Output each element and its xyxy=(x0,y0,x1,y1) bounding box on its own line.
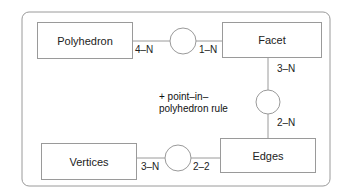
entity-facet-label: Facet xyxy=(258,34,286,46)
entity-vertices: Vertices xyxy=(41,143,137,180)
entity-vertices-label: Vertices xyxy=(69,156,108,168)
entity-polyhedron-label: Polyhedron xyxy=(57,35,113,47)
relationship-circle-polyhedron-facet xyxy=(170,28,196,54)
cardinality-facet-edges-bottom: 2–N xyxy=(277,117,295,128)
rule-note: + point–in– polyhedron rule xyxy=(159,91,228,115)
entity-edges: Edges xyxy=(220,138,316,173)
relationship-circle-vertices-edges xyxy=(165,145,191,171)
cardinality-polyhedron-facet-right: 1–N xyxy=(199,44,217,55)
cardinality-vertices-edges-right: 2–2 xyxy=(193,161,210,172)
cardinality-polyhedron-facet-left: 4–N xyxy=(135,44,153,55)
cardinality-facet-edges-top: 3–N xyxy=(277,63,295,74)
entity-polyhedron: Polyhedron xyxy=(37,22,133,59)
rule-note-line2: polyhedron rule xyxy=(159,103,228,115)
rule-note-line1: + point–in– xyxy=(159,91,228,103)
cardinality-vertices-edges-left: 3–N xyxy=(141,161,159,172)
entity-facet: Facet xyxy=(222,22,322,58)
relationship-circle-facet-edges xyxy=(256,90,280,114)
entity-edges-label: Edges xyxy=(252,150,283,162)
